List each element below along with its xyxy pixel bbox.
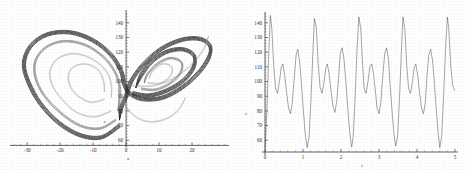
x-tick-label--30: -30 — [24, 147, 31, 153]
trajectory-attractor-outer-band — [22, 30, 209, 139]
x-tick-label-0: 0 — [264, 154, 267, 160]
time-series-plot: 01234560708090100110120130140tz — [233, 0, 466, 173]
x-tick-label--10: -10 — [90, 147, 97, 153]
x-tick-label-0: 0 — [125, 147, 128, 153]
phase-portrait-plot: -30-20-100102060708090100110120130140xz — [0, 0, 233, 173]
trajectory-attractor-inner-left-3 — [69, 64, 105, 102]
y-tick-label-70: 70 — [257, 122, 263, 128]
y-tick-label-130: 130 — [254, 34, 262, 40]
y-tick-label-140: 140 — [115, 20, 123, 26]
y-tick-label-130: 130 — [115, 34, 123, 40]
trajectory-attractor-inner-left-3 — [68, 64, 105, 103]
series-z-of-t — [265, 15, 455, 147]
x-axis-label: t — [361, 163, 363, 168]
x-tick-label-1: 1 — [302, 154, 305, 160]
trajectory-attractor-inner-left-2 — [50, 54, 111, 116]
y-tick-label-110: 110 — [255, 64, 263, 70]
x-tick-label-10: 10 — [157, 147, 163, 153]
figure-container: -30-20-100102060708090100110120130140xz … — [0, 0, 466, 173]
y-tick-label-90: 90 — [257, 93, 263, 99]
x-tick-label-3: 3 — [378, 154, 381, 160]
y-tick-label-80: 80 — [257, 108, 263, 114]
x-tick-label--20: -20 — [57, 147, 64, 153]
y-tick-label-140: 140 — [254, 20, 262, 26]
trajectory-attractor-inner-left-2 — [49, 53, 112, 117]
y-tick-label-120: 120 — [254, 49, 262, 55]
y-tick-label-100: 100 — [254, 78, 262, 84]
y-tick-label-120: 120 — [115, 49, 123, 55]
y-tick-label-60: 60 — [118, 137, 124, 143]
y-tick-label-60: 60 — [257, 137, 263, 143]
y-axis-label: z — [244, 111, 247, 116]
y-tick-label-70: 70 — [118, 122, 124, 128]
x-tick-label-2: 2 — [340, 154, 343, 160]
panel-time-series: 01234560708090100110120130140tz — [233, 0, 466, 173]
panel-phase-portrait: -30-20-100102060708090100110120130140xz — [0, 0, 233, 173]
x-tick-label-5: 5 — [454, 154, 457, 160]
y-axis-label: z — [103, 119, 106, 124]
x-tick-label-4: 4 — [416, 154, 419, 160]
x-axis-label: x — [126, 156, 130, 161]
x-tick-label-20: 20 — [189, 147, 195, 153]
